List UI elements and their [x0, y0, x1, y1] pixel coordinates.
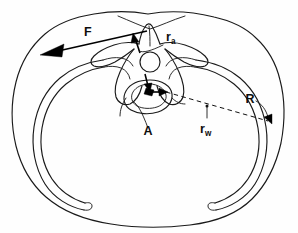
radius-label-base: R — [245, 92, 254, 106]
ra-leader-line — [139, 45, 163, 52]
left-rib-tip — [84, 203, 92, 211]
radius-arrow-group — [256, 101, 272, 124]
radius-label: R — [245, 92, 254, 106]
center-node-marker — [144, 88, 154, 96]
rw-tick-dot — [206, 105, 209, 108]
force-label: F — [84, 25, 92, 39]
point-a-label: A — [143, 124, 152, 138]
labels-group: F ra rw R A — [84, 25, 255, 138]
right-costovertebral-joint-lower — [169, 66, 195, 79]
vertebral-lower-contour-left — [120, 98, 126, 116]
right-transverse-process — [160, 43, 208, 67]
thoracic-cross-section-diagram: F ra rw R A — [0, 0, 298, 233]
ra-label: ra — [166, 30, 176, 46]
vertebra-group — [91, 24, 208, 116]
rw-label-subscript: w — [204, 129, 212, 138]
rw-origin-arrow-group — [144, 88, 168, 96]
force-vector-arrowhead — [40, 44, 64, 57]
rw-label: rw — [200, 122, 212, 138]
spinal-canal — [140, 52, 160, 72]
point-a-label-base: A — [143, 124, 152, 138]
right-rib-tip — [208, 203, 216, 211]
left-transverse-process — [91, 43, 139, 67]
figure-container: F ra rw R A — [0, 0, 298, 233]
left-rib-group — [33, 60, 104, 210]
body-outline-group — [12, 12, 284, 227]
ra-label-subscript: a — [171, 37, 176, 46]
vertebral-lower-contour-right — [172, 98, 185, 104]
left-costovertebral-joint-lower — [104, 66, 130, 79]
body-outline — [12, 12, 284, 227]
force-label-base: F — [84, 25, 92, 39]
body-outline-top-notch — [118, 16, 185, 29]
